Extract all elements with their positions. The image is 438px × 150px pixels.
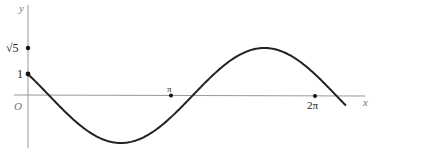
pi-point (169, 94, 173, 98)
sqrt5-label: √5 (6, 41, 19, 55)
origin-label: O (14, 100, 22, 112)
pi-label: π (167, 84, 172, 94)
y-axis-label: y (18, 2, 24, 14)
sqrt5-point (26, 46, 30, 50)
one-label: 1 (17, 67, 23, 81)
x-axis (14, 95, 365, 96)
y-intercept-point (26, 72, 31, 77)
two-pi-point (313, 94, 317, 98)
two-pi-label: 2π (307, 99, 319, 111)
x-axis-label: x (362, 96, 368, 108)
function-graph: y x O √5 1 π 2π (0, 0, 438, 150)
